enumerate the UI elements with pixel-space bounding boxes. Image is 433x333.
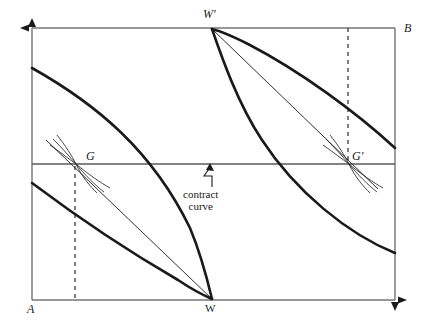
origin-label-b: B [404,22,411,34]
arrow-down-icon [391,302,399,311]
edgeworth-box-diagram [0,0,433,333]
arrow-up-icon [28,18,36,27]
arrow-right-icon [398,296,407,303]
price-ray-w-prime-to-g-prime [212,29,378,189]
figure-canvas: A B W W′ G G′ contract curve [0,0,433,333]
endowment-label-w: W [205,303,215,314]
indifference-curve-b-lower-right [212,29,395,253]
contract-curve-annotation-line-1: contract [183,188,218,200]
contract-curve-annotation-line-2: curve [183,200,218,212]
indifference-curve-a-upper-right [212,29,395,148]
indifference-curve-a-upper-left [32,68,212,299]
contract-curve-annotation: contract curve [183,188,218,213]
arrow-left-icon [20,24,29,31]
endowment-label-w-prime: W′ [203,8,216,20]
equilibrium-label-g: G [86,150,95,162]
origin-label-a: A [27,303,34,315]
equilibrium-label-g-prime: G′ [352,150,363,162]
